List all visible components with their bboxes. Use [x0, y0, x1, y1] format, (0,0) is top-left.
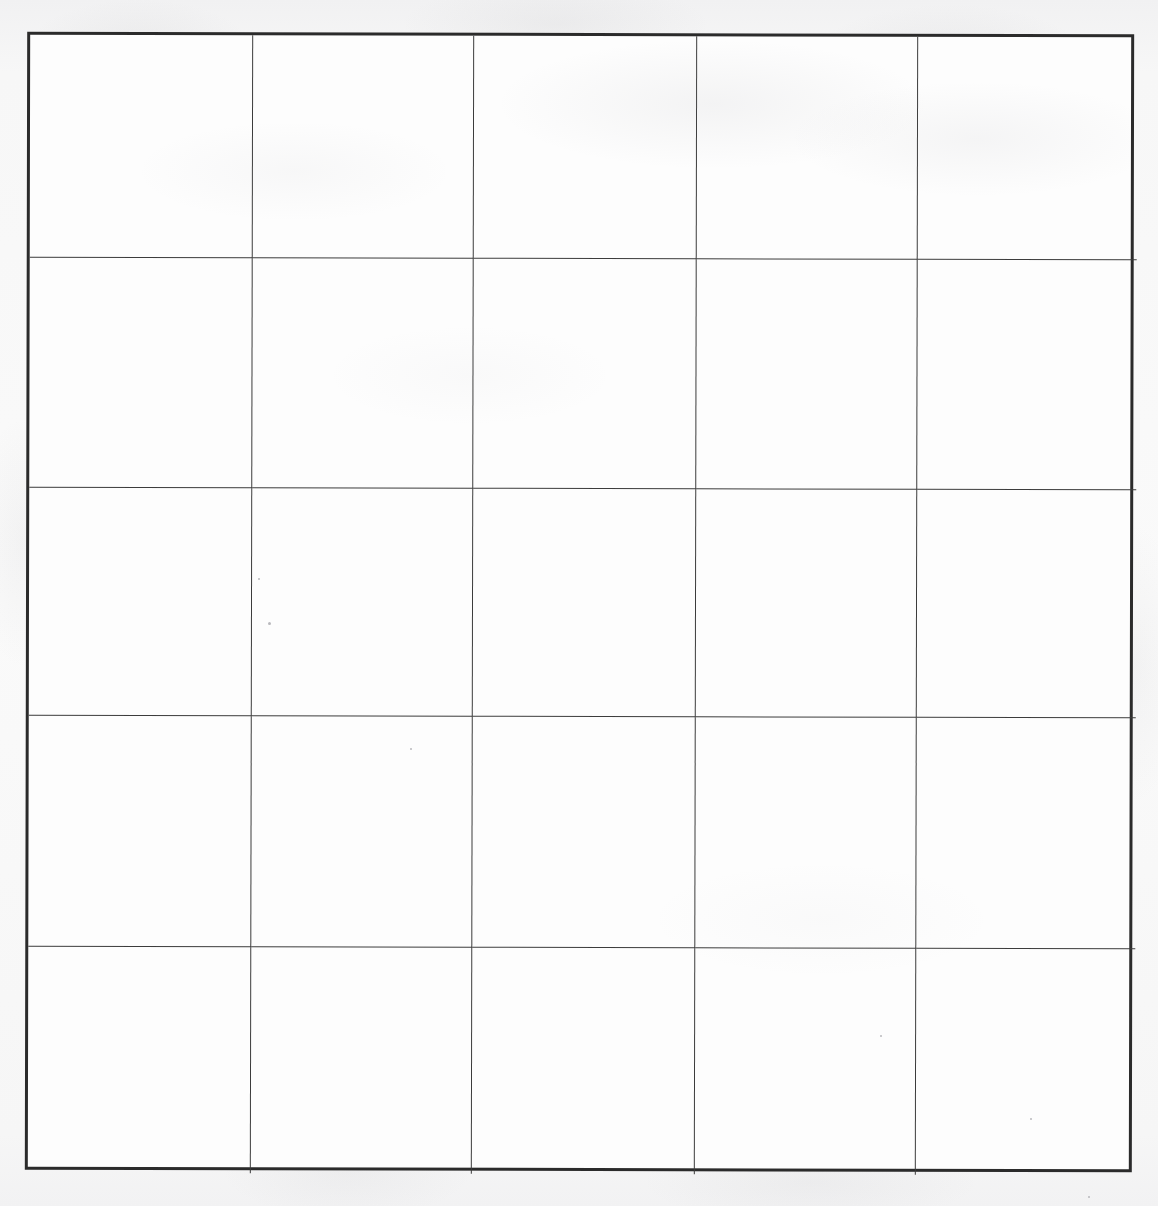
- table-cell-r2-c3[interactable]: [473, 259, 696, 489]
- table-cell-r2-c1[interactable]: [29, 258, 252, 488]
- table-cell-r4-c5[interactable]: [916, 718, 1135, 949]
- table-cell-r1-c5[interactable]: [918, 37, 1137, 260]
- table-cell-r4-c1[interactable]: [28, 716, 251, 947]
- table-cell-r1-c1[interactable]: [30, 35, 253, 258]
- table-cell-r1-c3[interactable]: [474, 36, 697, 259]
- table-cell-r5-c5[interactable]: [916, 949, 1135, 1175]
- table-cell-r3-c5[interactable]: [917, 490, 1136, 718]
- table-cell-r4-c3[interactable]: [472, 717, 695, 948]
- table-cell-r3-c4[interactable]: [696, 489, 917, 717]
- scanned-page: [0, 0, 1158, 1206]
- blank-grid-table[interactable]: [25, 32, 1134, 1172]
- table-cell-r2-c5[interactable]: [917, 260, 1136, 490]
- table-cell-r5-c2[interactable]: [251, 947, 472, 1173]
- table-cell-r5-c4[interactable]: [695, 948, 916, 1174]
- table-cell-r3-c2[interactable]: [252, 488, 473, 716]
- table-cell-r4-c4[interactable]: [695, 717, 916, 948]
- table-cell-r4-c2[interactable]: [251, 716, 472, 947]
- table-cell-r3-c3[interactable]: [473, 489, 696, 717]
- table-cell-r2-c4[interactable]: [696, 259, 917, 489]
- scan-speck-6: [1088, 1196, 1090, 1198]
- table-cell-r1-c2[interactable]: [253, 35, 474, 258]
- table-cell-r5-c3[interactable]: [472, 948, 695, 1174]
- table-cell-r3-c1[interactable]: [29, 488, 252, 716]
- table-cell-r2-c2[interactable]: [252, 258, 473, 488]
- table-cell-r1-c4[interactable]: [697, 36, 918, 259]
- table-cell-r5-c1[interactable]: [28, 947, 251, 1173]
